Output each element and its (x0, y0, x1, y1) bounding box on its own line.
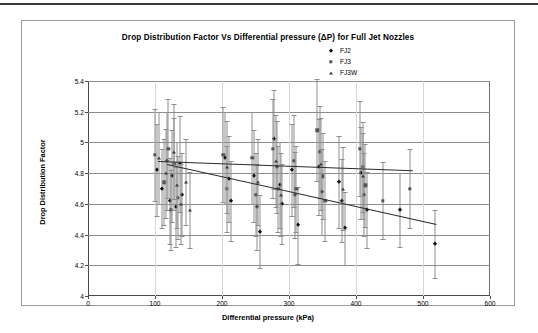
error-bar-cap (273, 115, 278, 116)
chart-legend: FJ2 FJ3 FJ3W (329, 45, 357, 78)
error-bar-cap (360, 122, 365, 123)
error-bar-cap (323, 241, 328, 242)
y-tick-label: 4.2 (75, 262, 84, 269)
y-tick-mark (85, 173, 88, 174)
error-bar-cap (278, 153, 283, 154)
data-point-fj3w (179, 202, 183, 205)
x-tick-mark (289, 296, 290, 299)
y-tick-label: 5 (80, 139, 84, 146)
error-bar-cap (341, 230, 346, 231)
error-bar-cap (250, 204, 255, 205)
error-bar-cap (270, 99, 275, 100)
triangle-marker-icon (329, 71, 333, 74)
error-bar-cap (397, 173, 402, 174)
error-bar-cap (397, 247, 402, 248)
error-bar-cap (342, 265, 347, 266)
legend-item-fj3: FJ3 (329, 56, 357, 67)
data-point-fj3 (358, 147, 361, 150)
legend-label: FJ3 (340, 58, 351, 65)
error-bar-cap (278, 236, 283, 237)
error-bar-cap (358, 101, 363, 102)
gridline-vertical (356, 81, 357, 296)
error-bar-cap (337, 136, 342, 137)
data-point-fj3w (164, 172, 168, 175)
error-bar-cap (433, 210, 438, 211)
error-bar-cap (169, 250, 174, 251)
data-point-fj3 (315, 128, 318, 131)
error-bar-cap (433, 278, 438, 279)
error-bar-cap (171, 199, 176, 200)
x-tick-label: 300 (283, 300, 294, 307)
chart-page: Drop Distribution Factor Vs Differential… (0, 0, 538, 333)
x-tick-label: 100 (149, 300, 160, 307)
error-bar-cap (166, 99, 171, 100)
data-point-fj3w (225, 166, 229, 169)
error-bar-cap (163, 218, 168, 219)
x-tick-label: 600 (484, 300, 495, 307)
data-point-fj3w (361, 175, 365, 178)
data-point-fj3w (319, 162, 323, 165)
x-axis-label: Differential pressure (kPa) (22, 313, 514, 322)
data-point-fj3w (279, 193, 283, 196)
error-bar-cap (250, 112, 255, 113)
error-bar-cap (291, 115, 296, 116)
error-bar-cap (221, 107, 226, 108)
data-point-fj3 (271, 147, 274, 150)
gridline-vertical (423, 81, 424, 296)
data-point-fj3 (364, 184, 367, 187)
data-point-fj3w (184, 181, 188, 184)
error-bar-cap (276, 146, 281, 147)
error-bar-cap (361, 133, 366, 134)
data-point-fj3w (157, 156, 161, 159)
error-bar-cap (157, 112, 162, 113)
error-bar-cap (272, 90, 277, 91)
error-bar-cap (183, 139, 188, 140)
x-tick-label: 0 (86, 300, 90, 307)
y-tick-mark (85, 142, 88, 143)
x-tick-label: 400 (350, 300, 361, 307)
error-bar-cap (153, 109, 158, 110)
x-tick-label: 200 (216, 300, 227, 307)
legend-label: FJ3W (340, 69, 357, 76)
error-bar-cap (323, 161, 328, 162)
y-tick-mark (85, 204, 88, 205)
error-bar-cap (256, 139, 261, 140)
error-bar-cap (225, 121, 230, 122)
error-bar-cap (163, 129, 168, 130)
gridline-vertical (289, 81, 290, 296)
error-bar-cap (173, 247, 178, 248)
error-bar-cap (341, 147, 346, 148)
x-tick-mark (222, 296, 223, 299)
diamond-marker-icon (329, 48, 334, 53)
y-tick-label: 4 (80, 293, 84, 300)
error-bar-cap (319, 118, 324, 119)
error-bar-cap (155, 216, 160, 217)
error-bar-cap (187, 172, 192, 173)
error-bar-cap (229, 161, 234, 162)
error-bar-cap (317, 106, 322, 107)
error-bar-cap (175, 228, 180, 229)
chart-title: Drop Distribution Factor Vs Differential… (22, 33, 514, 42)
y-tick-mark (85, 235, 88, 236)
error-bar-cap (171, 104, 176, 105)
data-point-fj3 (408, 187, 411, 190)
error-bar-cap (224, 232, 229, 233)
error-bar-cap (364, 248, 369, 249)
error-bar-cap (294, 232, 299, 233)
error-bar-cap (380, 239, 385, 240)
page-top-rule (0, 3, 538, 5)
data-point-fj3w (274, 159, 278, 162)
legend-item-fj2: FJ2 (329, 45, 357, 56)
error-bar-cap (295, 264, 300, 265)
error-bar-cap (159, 228, 164, 229)
error-bar-cap (157, 204, 162, 205)
data-point-fj3w (172, 150, 176, 153)
error-bar-cap (187, 248, 192, 249)
data-point-fj3 (250, 156, 253, 159)
error-bar-cap (277, 142, 282, 143)
error-bar-cap (273, 207, 278, 208)
y-tick-label: 4.8 (75, 170, 84, 177)
data-point-fj3w (188, 209, 192, 212)
error-bar-cap (180, 153, 185, 154)
legend-item-fj3w: FJ3W (329, 67, 357, 78)
